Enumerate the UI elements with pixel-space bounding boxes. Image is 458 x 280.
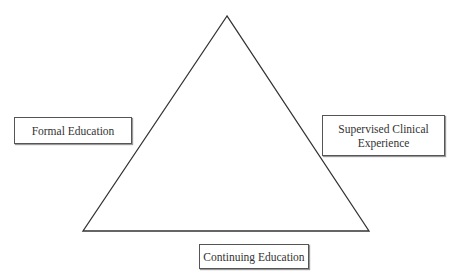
continuing-education-box: Continuing Education <box>199 244 309 269</box>
supervised-clinical-label-line1: Supervised Clinical <box>338 122 428 136</box>
supervised-clinical-experience-box: Supervised Clinical Experience <box>322 115 445 156</box>
continuing-education-label: Continuing Education <box>203 250 304 264</box>
formal-education-box: Formal Education <box>14 117 132 144</box>
supervised-clinical-label-line2: Experience <box>358 136 410 150</box>
formal-education-label: Formal Education <box>32 124 115 138</box>
